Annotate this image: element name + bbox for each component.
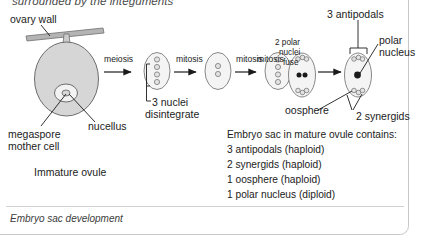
cell-stage-5-mature-embryo-sac [345, 48, 372, 97]
immature-ovule-graphic [35, 42, 99, 126]
summary-item-polar-nucleus: 1 polar nucleus (diploid) [227, 188, 397, 203]
stage-label-mitosis-1: mitosis [176, 54, 203, 64]
stage-label-meiosis: meiosis [104, 54, 133, 64]
label-megaspore-mother-cell-line2: mother cell [8, 140, 59, 152]
label-nucellus: nucellus [88, 120, 127, 132]
label-polar-nucleus-line2: nucleus [379, 46, 415, 58]
embryo-sac-development-figure: surrounded by the integuments [0, 0, 424, 241]
label-two-synergids: 2 synergids [356, 110, 410, 122]
label-immature-ovule: Immature ovule [34, 166, 106, 178]
caption-divider [6, 206, 404, 207]
label-ovary-wall: ovary wall [10, 13, 57, 25]
label-three-antipodals: 3 antipodals [327, 8, 384, 20]
cell-stage-1-four-nuclei [144, 53, 170, 102]
label-three-nuclei-line1: 3 nuclei [152, 96, 188, 108]
summary-item-oosphere: 1 oosphere (haploid) [227, 173, 397, 188]
summary-heading: Embryo sac in mature ovule contains: [227, 128, 397, 143]
label-oosphere: oosphere [285, 104, 329, 116]
label-polar-fuse-line2: nuclei [279, 48, 300, 57]
label-megaspore-mother-cell-line1: megaspore [8, 128, 61, 140]
summary-item-antipodals: 3 antipodals (haploid) [227, 143, 397, 158]
figure-caption: Embryo sac development [10, 213, 123, 224]
mature-ovule-summary: Embryo sac in mature ovule contains: 3 a… [227, 128, 397, 203]
label-polar-fuse-line1: 2 polar [275, 38, 300, 47]
label-polar-nucleus-line1: polar [379, 34, 402, 46]
cell-stage-2-two-nuclei [205, 53, 231, 90]
summary-item-synergids: 2 synergids (haploid) [227, 158, 397, 173]
label-three-nuclei-line2: disintegrate [145, 108, 199, 120]
label-polar-fuse-line3: fuse [283, 58, 298, 67]
